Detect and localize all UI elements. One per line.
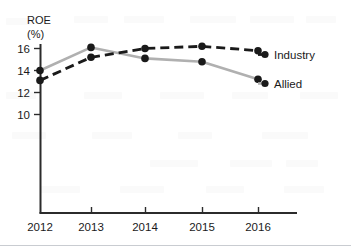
- y-tick-label-14: 14: [17, 65, 30, 77]
- chart-container: ROE (%) 16 14 12 10 2012 2013 2014 2015 …: [0, 0, 351, 250]
- y-axis-unit: (%): [27, 28, 44, 40]
- x-tick-label-2016: 2016: [245, 221, 271, 233]
- data-point-allied-2014: [141, 55, 149, 63]
- data-point-allied-2013: [87, 44, 95, 52]
- series-industry: [36, 43, 262, 85]
- page-bottom-rule: [0, 245, 351, 246]
- data-point-industry-2013: [87, 54, 95, 62]
- legend-industry-marker: [261, 51, 268, 58]
- legend-industry-label: Industry: [274, 49, 315, 61]
- y-tick-label-10: 10: [17, 109, 30, 121]
- legend-allied-label: Allied: [274, 78, 302, 90]
- industry-line: [40, 46, 258, 80]
- x-tick-label-2014: 2014: [132, 221, 158, 233]
- data-point-industry-2014: [141, 45, 149, 53]
- line-chart-plot: ROE (%) 16 14 12 10 2012 2013 2014 2015 …: [0, 0, 351, 250]
- x-tick-label-2012: 2012: [27, 221, 53, 233]
- data-point-allied-2016: [254, 76, 262, 84]
- y-tick-label-16: 16: [17, 43, 30, 55]
- x-tick-label-2015: 2015: [189, 221, 215, 233]
- axis-group: [34, 44, 297, 214]
- data-point-allied-2015: [198, 58, 206, 66]
- y-tick-label-12: 12: [17, 87, 30, 99]
- legend-allied-marker: [261, 80, 268, 87]
- y-axis-title: ROE: [27, 14, 51, 26]
- x-tick-label-2013: 2013: [78, 221, 104, 233]
- data-point-industry-2015: [198, 43, 206, 51]
- legend-group: Industry Allied: [258, 49, 315, 90]
- data-point-industry-2012: [36, 77, 44, 85]
- allied-line: [40, 47, 258, 79]
- data-point-allied-2012: [36, 67, 44, 75]
